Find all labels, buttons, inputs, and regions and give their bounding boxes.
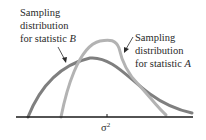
svg-text:Sampling: Sampling xyxy=(20,7,61,18)
svg-text:distribution: distribution xyxy=(20,20,69,31)
arrow-to-curve-b xyxy=(58,47,67,63)
axis-tick-label: σ2 xyxy=(101,121,111,133)
sampling-distributions-diagram: σ2 Sampling distribution for statistic B… xyxy=(0,0,206,140)
svg-text:for statistic B: for statistic B xyxy=(20,33,77,44)
svg-text:Sampling: Sampling xyxy=(135,32,176,43)
label-statistic-a: Sampling distribution for statistic A xyxy=(135,32,192,69)
label-statistic-b: Sampling distribution for statistic B xyxy=(20,7,77,44)
arrow-to-curve-a xyxy=(124,37,133,53)
svg-text:for statistic A: for statistic A xyxy=(135,58,192,69)
svg-text:distribution: distribution xyxy=(135,45,184,56)
